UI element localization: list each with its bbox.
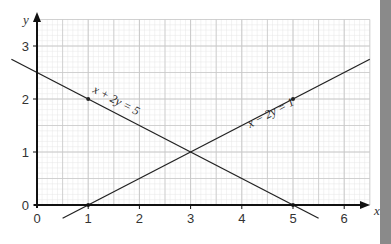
x-tick-label: 4 bbox=[238, 211, 245, 226]
grid-minor bbox=[37, 20, 370, 206]
x-tick-label: 1 bbox=[85, 211, 92, 226]
x-tick-label: 5 bbox=[289, 211, 296, 226]
y-axis-arrow-icon bbox=[33, 12, 41, 22]
page-edge-bar bbox=[380, 0, 391, 244]
axes bbox=[33, 12, 370, 209]
y-tick-label: 3 bbox=[22, 39, 29, 54]
x-tick-label: 0 bbox=[33, 211, 40, 226]
x-tick-label: 6 bbox=[341, 211, 348, 226]
x-tick-label: 3 bbox=[187, 211, 194, 226]
x-axis-arrow-icon bbox=[360, 201, 370, 209]
data-point bbox=[86, 97, 90, 101]
x-tick-label: 2 bbox=[136, 211, 143, 226]
chart: 01234560123xy x + 2y = 5x − 2y = 1 bbox=[0, 0, 391, 244]
y-tick-label: 2 bbox=[22, 92, 29, 107]
y-tick-label: 1 bbox=[22, 145, 29, 160]
grid-major bbox=[37, 20, 370, 206]
y-tick-label: 0 bbox=[22, 198, 29, 213]
y-axis-label: y bbox=[21, 12, 29, 27]
equation-labels: x + 2y = 5x − 2y = 1 bbox=[90, 82, 297, 131]
